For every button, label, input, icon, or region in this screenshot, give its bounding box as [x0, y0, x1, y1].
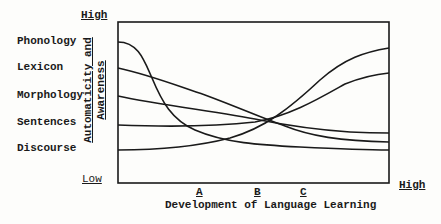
x-marker-c: C [300, 186, 307, 198]
plot-frame [118, 22, 389, 183]
x-axis-title: Development of Language Learning [165, 199, 376, 211]
curve-discourse [118, 48, 389, 150]
x-axis-high-label: High [399, 179, 425, 191]
x-marker-b: B [254, 186, 261, 198]
plot-area [0, 0, 441, 224]
curve-phonology [118, 42, 389, 150]
x-marker-a: A [196, 186, 203, 198]
curve-lexicon [118, 68, 389, 142]
